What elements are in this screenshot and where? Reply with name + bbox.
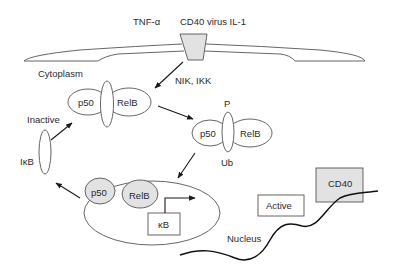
inactive-label: Inactive bbox=[27, 114, 60, 125]
kinases-label: NIK, IKK bbox=[175, 75, 212, 86]
cd40-label: CD40 bbox=[328, 178, 352, 189]
nucleus-label: Nucleus bbox=[227, 233, 262, 244]
ikb-released bbox=[39, 130, 51, 174]
arrow-to-ikb bbox=[56, 183, 80, 198]
modified-complex: P p50 RelB Ub bbox=[192, 98, 272, 168]
nuclear-complex: p50 RelB bbox=[85, 178, 158, 208]
relb-label: RelB bbox=[129, 190, 150, 201]
ubiquitination-label: Ub bbox=[221, 157, 233, 168]
inactive-complex: p50 RelB bbox=[68, 81, 151, 127]
transcription-arrow bbox=[165, 198, 195, 213]
p50-label: p50 bbox=[91, 187, 107, 198]
ikb-subunit bbox=[101, 81, 114, 127]
cytoplasm-label: Cytoplasm bbox=[38, 68, 83, 79]
phosphorylation-label: P bbox=[224, 98, 230, 109]
nfkb-pathway-diagram: TNF-α CD40 virus IL-1 Cytoplasm NIK, IKK… bbox=[0, 0, 395, 274]
arrow-to-modified-complex bbox=[158, 106, 193, 119]
receptor-icon bbox=[180, 34, 207, 60]
relb-label: RelB bbox=[117, 97, 138, 108]
arrow-to-inactive bbox=[51, 123, 72, 140]
arrow-to-nucleus bbox=[178, 153, 195, 178]
stimulus-tnf-label: TNF-α bbox=[133, 16, 161, 27]
ikb-subunit bbox=[222, 112, 234, 152]
p50-label: p50 bbox=[200, 128, 216, 139]
ikb-label: IκB bbox=[20, 156, 34, 167]
kb-site-label: κB bbox=[158, 219, 169, 230]
relb-label: RelB bbox=[240, 128, 261, 139]
stimulus-others-label: CD40 virus IL-1 bbox=[180, 16, 246, 27]
active-label: Active bbox=[266, 200, 292, 211]
p50-label: p50 bbox=[78, 97, 94, 108]
